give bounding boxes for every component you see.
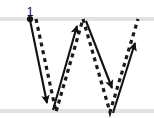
stroke-2-arrow [53, 26, 77, 110]
stroke-3-arrow [86, 21, 112, 88]
letter-outline-dashed [36, 19, 138, 112]
stroke-diagram-canvas: 1 [0, 0, 154, 118]
stroke-4-arrow [113, 43, 135, 113]
stroke-order-label: 1 [27, 5, 34, 19]
letter-stroke-diagram: 1 [0, 0, 154, 118]
guidelines-group [0, 19, 154, 111]
start-marker-group: 1 [27, 5, 34, 22]
